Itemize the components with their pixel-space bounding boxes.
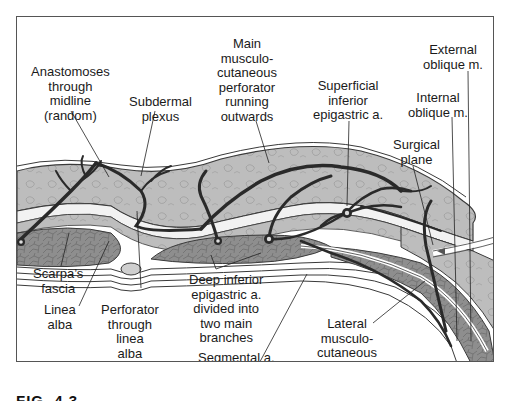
label-perforator-linea-alba: Perforator through linea alba <box>101 303 159 361</box>
linea-alba-oval <box>121 263 141 275</box>
label-superficial-epigastric: Superficial inferior epigastric a. <box>313 79 383 123</box>
label-main-perforator: Main musculo- cutaneous perforator runni… <box>217 37 277 124</box>
label-segmental-artery: Segmental a. <box>198 351 275 362</box>
label-anastomoses: Anastomoses through midline (random) <box>31 65 110 123</box>
label-surgical-plane: Surgical plane <box>393 138 440 167</box>
label-subdermal-plexus: Subdermal plexus <box>129 95 192 124</box>
label-deep-inferior-epigastric: Deep inferior epigastric a. divided into… <box>189 273 263 346</box>
label-internal-oblique: Internal oblique m. <box>408 91 468 120</box>
label-external-oblique: External oblique m. <box>423 43 483 72</box>
figure-caption: FIG. 4.3 <box>16 392 78 401</box>
label-scarpas-fascia: Scarpa’s fascia <box>33 267 83 296</box>
figure-frame: Anastomoses through midline (random) Sub… <box>16 16 494 362</box>
label-lateral-perforator: Lateral musculo- cutaneous perforator <box>317 317 377 362</box>
label-linea-alba: Linea alba <box>44 303 76 332</box>
